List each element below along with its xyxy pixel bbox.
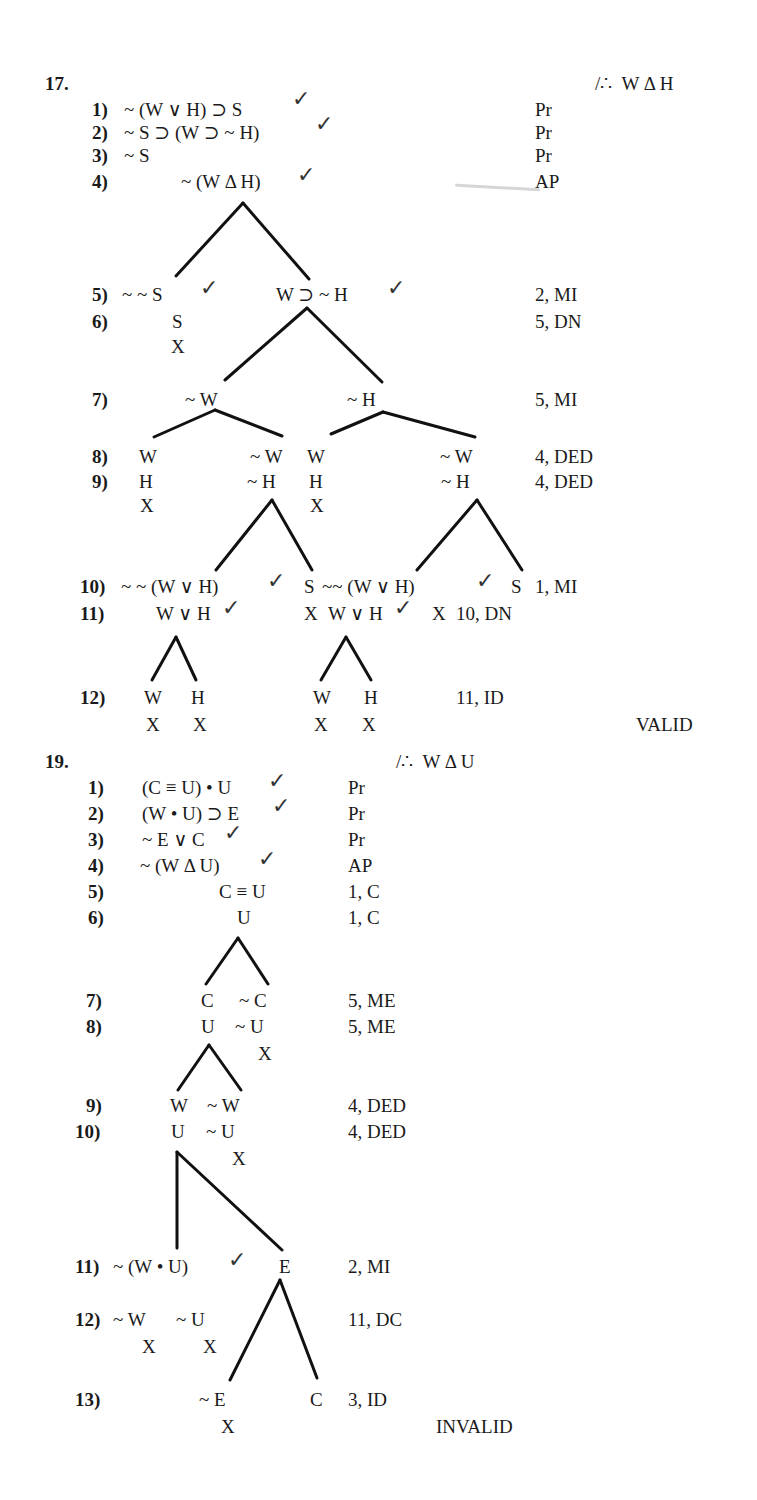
formula: C ≡ U [219,881,266,903]
line-number: 5) [88,881,104,903]
closed-branch-mark: X [232,1148,246,1170]
node: ~ H [247,471,276,493]
verdict: VALID [636,714,693,736]
line-number: 13) [75,1389,100,1411]
problem-number: 17. [45,73,69,95]
node: ~ U [235,1016,264,1038]
line-number: 3) [92,145,108,167]
closed-branch-mark: X [171,336,185,358]
closed-branch-mark: X [142,1336,156,1358]
node: U [171,1121,185,1143]
line-number: 6) [92,311,108,333]
node: S [304,576,315,598]
check-mark-icon: ✓ [315,113,333,135]
node: ~ (W • U) [113,1256,188,1278]
node: H [139,471,153,493]
check-mark-icon: ✓ [222,597,240,619]
conclusion: /∴ W Δ U [396,751,474,773]
check-mark-icon: ✓ [394,597,412,619]
problem-number: 19. [45,751,69,773]
node: ~ W [207,1095,240,1117]
closed-branch-mark: X [140,495,154,517]
justification: 11, ID [456,687,504,709]
closed-branch-mark: X [304,603,318,625]
node: ~ ~ (W ∨ H) [121,576,218,598]
closed-branch-mark: X [258,1043,272,1065]
line-number: 11) [75,1256,99,1278]
justification: Pr [348,777,365,799]
node: S [511,576,522,598]
justification: 3, ID [348,1389,387,1411]
line-number: 9) [92,471,108,493]
justification: 1, C [348,907,380,929]
check-mark-icon: ✓ [292,88,310,110]
check-mark-icon: ✓ [228,1249,246,1271]
line-number: 7) [92,389,108,411]
closed-branch-mark: X [310,495,324,517]
line-number: 3) [88,829,104,851]
node: W [307,446,325,468]
node: W [139,446,157,468]
justification: Pr [348,829,365,851]
formula-right: ~ H [347,389,376,411]
line-number: 4) [92,171,108,193]
node: ~ W [250,446,283,468]
check-mark-icon: ✓ [267,570,285,592]
justification: Pr [535,145,552,167]
formula-right: W ⊃ ~ H [276,284,348,306]
justification: 5, ME [348,1016,396,1038]
scan-smudge [455,184,540,191]
formula: ~ S [124,145,150,167]
node: W ∨ H [156,603,211,625]
justification: 4, DED [535,471,593,493]
closed-branch-mark: X [314,714,328,736]
node: W [313,687,331,709]
line-number: 12) [75,1309,100,1331]
line-number: 5) [92,284,108,306]
formula: ~ S ⊃ (W ⊃ ~ H) [124,122,259,144]
check-mark-icon: ✓ [297,164,315,186]
node: ~ E [199,1389,226,1411]
node: W [170,1095,188,1117]
justification: Pr [535,99,552,121]
node: ~ W [113,1309,146,1331]
line-number: 10) [80,576,105,598]
justification: 5, DN [535,311,581,333]
justification: Pr [535,122,552,144]
line-number: 1) [92,99,108,121]
check-mark-icon: ✓ [272,795,290,817]
line-number: 8) [92,446,108,468]
formula: U [237,907,251,929]
justification: 4, DED [348,1095,406,1117]
node: E [279,1256,291,1278]
justification: 2, MI [535,284,577,306]
formula-left: S [172,311,183,333]
node: H [309,471,323,493]
closed-branch-mark: X [193,714,207,736]
node: ~ U [206,1121,235,1143]
node: ~ H [441,471,470,493]
closed-branch-mark: X [432,603,446,625]
formula-left: ~ W [185,389,218,411]
line-number: 12) [80,687,105,709]
justification: 4, DED [535,446,593,468]
node: U [201,1016,215,1038]
formula: ~ (W Δ H) [181,171,261,193]
justification: 10, DN [456,603,512,625]
line-number: 10) [75,1121,100,1143]
justification: 11, DC [348,1309,402,1331]
justification: 4, DED [348,1121,406,1143]
justification: 5, ME [348,990,396,1012]
node: ~ C [239,990,267,1012]
justification: AP [348,855,372,877]
check-mark-icon: ✓ [268,770,286,792]
conclusion: /∴ W Δ H [595,73,673,95]
justification: Pr [348,803,365,825]
node: W ∨ H [328,603,383,625]
verdict: INVALID [436,1416,513,1438]
line-number: 9) [86,1095,102,1117]
line-number: 8) [86,1016,102,1038]
node: H [191,687,205,709]
closed-branch-mark: X [203,1336,217,1358]
line-number: 6) [88,907,104,929]
